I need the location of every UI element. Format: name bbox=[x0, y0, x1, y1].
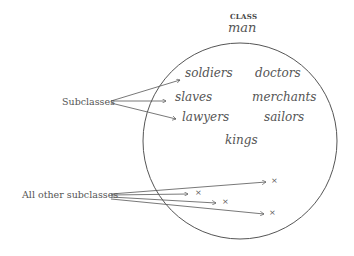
all-other-subclasses-label: All other subclasses bbox=[22, 189, 118, 200]
marker-x: × bbox=[222, 197, 229, 206]
marker-x: × bbox=[269, 208, 276, 217]
diagram-lines bbox=[0, 0, 354, 256]
member-soldiers: soldiers bbox=[185, 66, 233, 80]
marker-x: × bbox=[195, 188, 202, 197]
class-name: man bbox=[228, 20, 256, 35]
member-doctors: doctors bbox=[255, 66, 301, 80]
marker-x: × bbox=[271, 176, 278, 185]
subclasses-label: Subclasses bbox=[62, 96, 115, 107]
member-merchants: merchants bbox=[252, 90, 317, 104]
member-slaves: slaves bbox=[175, 90, 212, 104]
member-sailors: sailors bbox=[264, 110, 304, 124]
member-lawyers: lawyers bbox=[182, 110, 229, 124]
member-kings: kings bbox=[225, 133, 258, 147]
